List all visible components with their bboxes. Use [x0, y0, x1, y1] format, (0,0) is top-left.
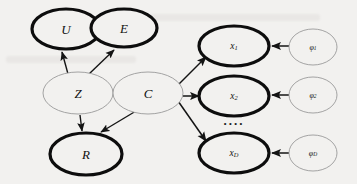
node-phid[interactable]: φD — [289, 135, 337, 171]
node-phi2[interactable]: φ2 — [289, 77, 337, 113]
node-z-label: Z — [74, 86, 82, 101]
node-x1-subscript: 1 — [234, 44, 237, 51]
node-phi1[interactable]: φ1 — [289, 29, 337, 65]
node-e[interactable]: E — [91, 9, 157, 47]
edge-c-to-x1 — [176, 57, 206, 87]
graph-svg: U E Z C R x1 — [0, 0, 357, 184]
node-xd[interactable]: xD — [199, 133, 269, 173]
node-c[interactable]: C — [113, 72, 183, 114]
node-phid-subscript: D — [312, 151, 317, 157]
node-layer: U E Z C R x1 — [32, 9, 337, 175]
node-z[interactable]: Z — [43, 72, 113, 114]
node-x2[interactable]: x2 — [199, 76, 269, 116]
edge-z-to-e — [89, 50, 114, 74]
node-r-label: R — [81, 147, 90, 162]
node-phi2-subscript: 2 — [314, 93, 317, 99]
node-phi1-subscript: 1 — [314, 45, 317, 51]
edge-z-to-r — [80, 115, 82, 131]
node-x1[interactable]: x1 — [199, 26, 269, 66]
node-xd-subscript: D — [233, 151, 239, 158]
node-e-label: E — [119, 21, 128, 36]
vertical-ellipsis-label: .... — [224, 113, 245, 128]
diagram-canvas: U E Z C R x1 — [0, 0, 357, 184]
node-c-label: C — [144, 86, 153, 101]
edge-c-to-xd — [178, 101, 206, 141]
node-r[interactable]: R — [50, 133, 122, 175]
edge-z-to-u — [62, 52, 68, 74]
edge-c-to-r — [101, 111, 136, 132]
node-u-label: U — [61, 22, 72, 37]
